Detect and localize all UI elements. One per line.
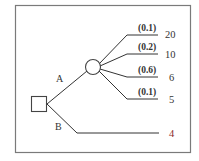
outcome-payoff-2: 10 bbox=[165, 49, 176, 60]
outcome-probability-2: (0.2) bbox=[138, 42, 156, 53]
branch-b-payoff: 4 bbox=[169, 128, 175, 139]
outcome-payoff-1: 20 bbox=[165, 29, 176, 40]
outcome-probability-3: (0.6) bbox=[138, 65, 156, 76]
branch-label-b: B bbox=[55, 121, 62, 132]
outcome-payoff-4: 5 bbox=[169, 94, 174, 105]
branch-label-a: A bbox=[56, 73, 64, 84]
branch-b-edge bbox=[47, 104, 159, 133]
decision-node-square bbox=[32, 97, 47, 112]
chance-node-circle bbox=[86, 60, 101, 75]
diagram-frame bbox=[16, 6, 191, 153]
outcome-payoff-3: 6 bbox=[169, 72, 174, 83]
decision-tree-diagram: A B (0.1) (0.2) (0.6) (0.1) 20 10 6 5 4 bbox=[0, 0, 199, 161]
outcome-probability-4: (0.1) bbox=[138, 87, 156, 98]
outcome-probability-1: (0.1) bbox=[138, 23, 156, 34]
branch-a-edge bbox=[47, 71, 87, 104]
